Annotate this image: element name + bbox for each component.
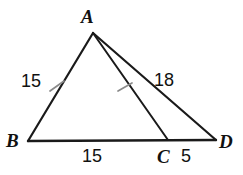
geometry-figure: A B C D 15 18 15 5 bbox=[0, 0, 243, 175]
measure-label-ab: 15 bbox=[21, 72, 41, 90]
vertex-label-b: B bbox=[6, 131, 19, 150]
vertex-label-a: A bbox=[81, 7, 94, 26]
measure-label-bc: 15 bbox=[82, 147, 102, 165]
segment-BD bbox=[28, 140, 216, 141]
measure-label-ad: 18 bbox=[154, 71, 174, 89]
vertex-label-c: C bbox=[157, 147, 170, 166]
measure-label-cd: 5 bbox=[181, 147, 191, 165]
vertex-label-d: D bbox=[219, 132, 233, 151]
